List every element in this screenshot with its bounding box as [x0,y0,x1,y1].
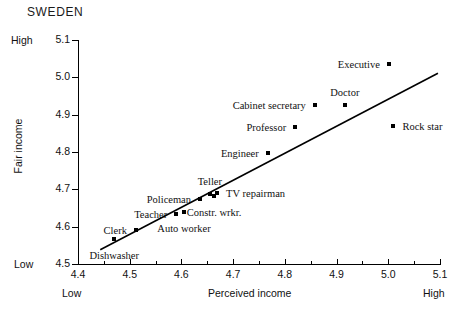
x-tick [388,259,389,265]
y-tick-label: 4.7 [42,182,70,194]
data-point-marker [198,197,202,201]
y-axis-line [78,40,79,265]
y-tick-label: 5.1 [42,33,70,45]
x-tick-minor [104,261,105,265]
y-tick-label: 5.0 [42,70,70,82]
chart-page: SWEDEN High Low Low High Fair income Per… [0,0,467,319]
x-tick [440,259,441,265]
data-point-label: Cabinet secretary [233,99,306,110]
data-point-marker [134,228,138,232]
data-point-marker [266,151,270,155]
x-tick-minor [207,261,208,265]
data-point-label: Rock star [402,120,442,131]
data-point-label: Teacher [134,209,167,220]
data-point-label: Auto worker [157,223,210,234]
x-tick [337,259,338,265]
x-tick-label: 4.4 [61,268,95,280]
data-point-marker [343,103,347,107]
data-point-marker [391,124,395,128]
y-tick-label: 4.9 [42,108,70,120]
x-tick-label: 4.5 [113,268,147,280]
x-tick [78,259,79,265]
x-tick-minor [259,261,260,265]
x-axis-title: Perceived income [208,287,291,299]
data-point-label: Constr. wrkr. [187,207,242,218]
y-tick-label: 4.6 [42,220,70,232]
y-tick-label: 4.8 [42,145,70,157]
y-tick [72,227,78,228]
y-tick [72,152,78,153]
y-tick [72,115,78,116]
chart-title: SWEDEN [27,5,83,19]
x-tick-label: 5.0 [371,268,405,280]
x-axis-low-label: Low [62,287,81,299]
x-tick-label: 4.6 [164,268,198,280]
data-point-marker [293,125,297,129]
data-point-marker [182,210,186,214]
y-axis-high-label: High [11,34,33,46]
y-axis-title: Fair income [12,106,24,186]
data-point-marker [112,237,116,241]
data-point-label: Doctor [330,87,359,98]
y-tick [72,40,78,41]
y-axis-low-label: Low [14,258,33,270]
y-tick [72,189,78,190]
data-point-label: Clerk [104,225,127,236]
x-tick [285,259,286,265]
data-point-label: Engineer [221,148,259,159]
x-tick [233,259,234,265]
data-point-marker [215,191,219,195]
x-tick-minor [414,261,415,265]
y-tick [72,77,78,78]
x-tick-minor [156,261,157,265]
x-axis-high-label: High [423,287,445,299]
x-tick [181,259,182,265]
x-tick-label: 4.8 [268,268,302,280]
data-point-label: Teller [198,176,222,187]
x-tick-label: 5.1 [423,268,457,280]
data-point-marker [387,62,391,66]
data-point-marker [313,103,317,107]
x-tick-minor [311,261,312,265]
x-tick-minor [362,261,363,265]
data-point-label: Policeman [147,194,191,205]
data-point-label: Dishwasher [89,250,139,261]
x-tick-label: 4.9 [320,268,354,280]
x-tick-label: 4.7 [216,268,250,280]
data-point-label: TV repairman [226,188,285,199]
data-point-marker [174,212,178,216]
data-point-label: Professor [247,122,287,133]
data-point-label: Executive [338,58,380,69]
